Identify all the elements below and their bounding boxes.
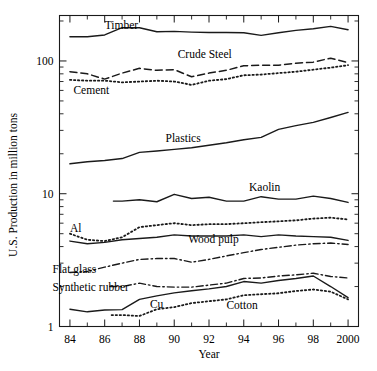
data-series-group — [70, 26, 348, 316]
series-label-plastics: Plastics — [166, 132, 202, 144]
series-label-timber: Timber — [105, 19, 139, 31]
series-line-plastics — [70, 112, 348, 163]
production-line-chart-figure: 100101 84868890929496982000 TimberCrude … — [0, 0, 377, 371]
series-label-cement: Cement — [73, 84, 110, 96]
series-label-cu: Cu — [150, 298, 164, 310]
x-tick-label: 94 — [238, 333, 250, 345]
x-axis-tick-labels: 84868890929496982000 — [64, 333, 360, 345]
x-tick-label: 2000 — [337, 333, 360, 345]
series-line-crude-steel — [70, 58, 348, 79]
x-tick-label: 98 — [308, 333, 320, 345]
x-tick-label: 84 — [64, 333, 76, 345]
series-label-wood-pulp: Wood pulp — [188, 233, 239, 246]
x-tick-label: 86 — [99, 333, 111, 345]
series-line-cement — [70, 65, 348, 85]
series-label-synthetic-rubber: Synthetic rubber — [53, 281, 129, 294]
y-axis-tick-labels: 100101 — [36, 55, 54, 333]
y-tick-label: 1 — [48, 321, 54, 333]
series-line-flat-glass — [70, 243, 348, 272]
series-label-cotton: Cotton — [226, 299, 258, 311]
series-inline-labels: TimberCrude SteelCementPlasticsKaolinAlW… — [53, 19, 281, 310]
series-label-kaolin: Kaolin — [249, 181, 281, 193]
series-label-crude-steel: Crude Steel — [178, 48, 232, 60]
x-tick-label: 90 — [168, 333, 180, 345]
y-axis-title: U.S. Production in million tons — [7, 113, 19, 257]
x-tick-label: 92 — [203, 333, 215, 345]
series-label-al: Al — [70, 222, 82, 234]
chart-canvas: 100101 84868890929496982000 TimberCrude … — [0, 0, 377, 371]
x-tick-label: 88 — [134, 333, 146, 345]
y-tick-label: 100 — [36, 55, 54, 67]
series-line-synthetic-rubber — [110, 273, 348, 287]
series-line-kaolin — [113, 194, 348, 202]
y-tick-label: 10 — [42, 188, 54, 200]
x-axis-title: Year — [198, 348, 219, 360]
series-label-flat-glass: Flat glass — [53, 263, 97, 276]
x-tick-label: 96 — [273, 333, 285, 345]
